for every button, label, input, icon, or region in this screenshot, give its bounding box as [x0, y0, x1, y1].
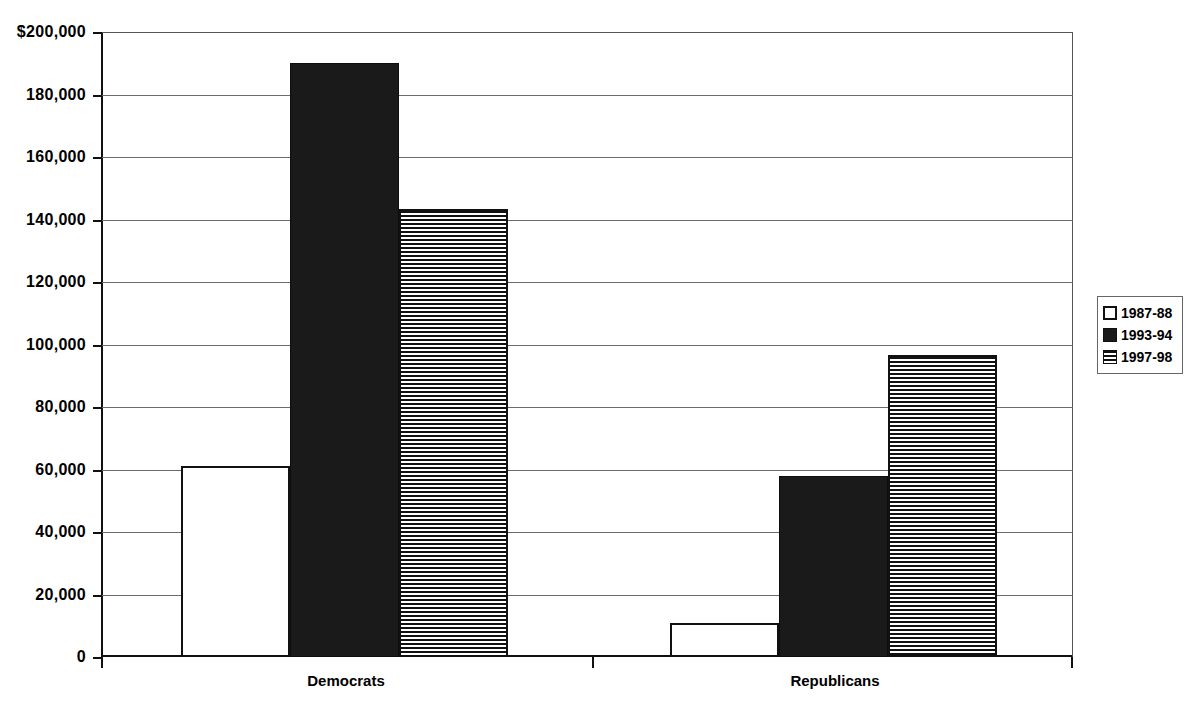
legend-swatch-striped [1103, 350, 1117, 364]
legend-item-label: 1997-98 [1121, 349, 1172, 365]
y-axis-tick-label: 160,000 [26, 148, 86, 166]
x-axis-tick [101, 657, 103, 668]
legend-item[interactable]: 1993-94 [1103, 324, 1178, 346]
legend-item[interactable]: 1997-98 [1103, 346, 1178, 368]
x-axis-tick [1071, 657, 1073, 668]
y-axis-tick-label: 40,000 [35, 523, 86, 541]
x-axis-tick [592, 657, 594, 668]
x-axis-category-label: Republicans [790, 672, 879, 689]
y-axis-tick-label: 100,000 [26, 336, 86, 354]
y-axis-tick-label: 140,000 [26, 211, 86, 229]
bar[interactable] [779, 476, 888, 657]
bar-group [101, 32, 1073, 657]
legend-swatch-solid [1103, 328, 1117, 342]
y-axis-tick-label: 120,000 [26, 273, 86, 291]
y-axis-tick-label: $200,000 [17, 23, 86, 41]
y-axis-tick-label: 20,000 [35, 586, 86, 604]
legend: 1987-881993-941997-98 [1097, 296, 1183, 374]
legend-swatch-white [1103, 306, 1117, 320]
bar[interactable] [670, 623, 779, 657]
legend-item-label: 1987-88 [1121, 305, 1172, 321]
legend-item-label: 1993-94 [1121, 327, 1172, 343]
y-axis-tick-label: 180,000 [26, 86, 86, 104]
y-axis-tick-label: 0 [77, 648, 86, 666]
bar[interactable] [888, 355, 997, 657]
bar-chart: $200,000180,000160,000140,000120,000100,… [0, 0, 1203, 705]
legend-item[interactable]: 1987-88 [1103, 302, 1178, 324]
y-axis-tick-label: 80,000 [35, 398, 86, 416]
x-axis-category-label: Democrats [307, 672, 385, 689]
y-axis-tick-label: 60,000 [35, 461, 86, 479]
